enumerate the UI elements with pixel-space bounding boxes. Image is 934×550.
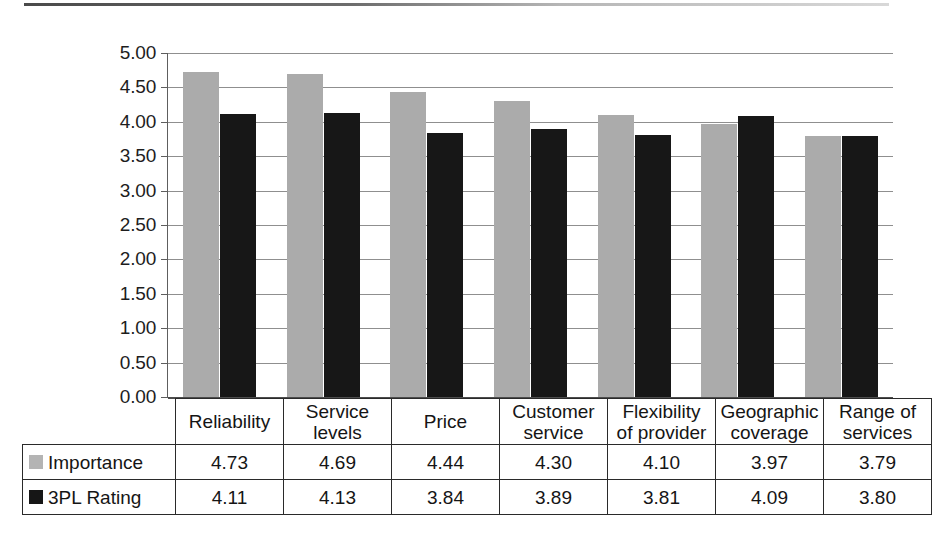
table-value-cell: 4.44 — [392, 445, 500, 480]
table-value-cell: 4.69 — [284, 445, 392, 480]
table-column-header: Range ofservices — [824, 399, 932, 445]
table-column-header: Reliability — [176, 399, 284, 445]
column-header-line: Price — [395, 411, 496, 432]
column-header-line: Customer — [503, 401, 604, 422]
y-axis-tick-label: 1.00 — [98, 318, 156, 337]
table-row: Importance4.734.694.444.304.103.973.79 — [23, 445, 932, 480]
y-axis-tick — [161, 294, 168, 295]
table-value-cell: 3.80 — [824, 480, 932, 515]
table-value-cell: 4.10 — [608, 445, 716, 480]
table-column-header: Customerservice — [500, 399, 608, 445]
y-axis-tick-label: 4.00 — [98, 112, 156, 131]
table-value-cell: 3.84 — [392, 480, 500, 515]
table-column-header: Servicelevels — [284, 399, 392, 445]
legend-cell: Importance — [23, 445, 176, 480]
y-axis-tick — [161, 87, 168, 88]
table-value-cell: 4.30 — [500, 445, 608, 480]
y-axis-tick-label: 4.50 — [98, 77, 156, 96]
legend-cell: 3PL Rating — [23, 480, 176, 515]
bar-rating — [324, 113, 360, 397]
bar-rating — [531, 129, 567, 397]
bar-importance — [494, 101, 530, 397]
table-head: ReliabilityServicelevelsPriceCustomerser… — [23, 399, 932, 445]
column-header-line: Range of — [827, 401, 928, 422]
column-header-line: Flexibility — [611, 401, 712, 422]
bar-importance — [390, 92, 426, 397]
table-value-cell: 3.81 — [608, 480, 716, 515]
bar-importance — [287, 74, 323, 397]
data-table: ReliabilityServicelevelsPriceCustomerser… — [22, 398, 932, 515]
table-row: 3PL Rating4.114.133.843.893.814.093.80 — [23, 480, 932, 515]
column-header-line: services — [827, 422, 928, 443]
y-axis-tick-label: 5.00 — [98, 43, 156, 62]
y-axis-tick — [161, 328, 168, 329]
bar-rating — [220, 114, 256, 397]
table-corner-cell — [23, 399, 176, 445]
column-header-line: Reliability — [179, 411, 280, 432]
column-header-line: levels — [287, 422, 388, 443]
table-column-header: Flexibilityof provider — [608, 399, 716, 445]
table-value-cell: 4.73 — [176, 445, 284, 480]
table-value-cell: 4.09 — [716, 480, 824, 515]
y-axis-tick-label: 0.50 — [98, 353, 156, 372]
bar-rating — [738, 116, 774, 397]
column-header-line: Geographic — [719, 401, 820, 422]
y-axis-tick — [161, 53, 168, 54]
table-value-cell: 3.89 — [500, 480, 608, 515]
bar-importance — [701, 124, 737, 397]
y-axis-tick-label: 3.00 — [98, 181, 156, 200]
legend-swatch-icon — [29, 490, 43, 504]
bar-rating — [842, 136, 878, 397]
column-header-line: service — [503, 422, 604, 443]
y-axis-tick — [161, 225, 168, 226]
bar-importance — [805, 136, 841, 397]
bar-chart-figure: 5.004.504.003.503.002.502.001.501.000.50… — [0, 0, 934, 550]
table-value-cell: 4.13 — [284, 480, 392, 515]
table-value-cell: 3.97 — [716, 445, 824, 480]
legend-swatch-icon — [29, 455, 43, 469]
y-axis-tick — [161, 363, 168, 364]
bars-layer — [168, 53, 893, 397]
legend-series-label: Importance — [48, 452, 143, 473]
bar-rating — [427, 133, 463, 397]
column-header-line: of provider — [611, 422, 712, 443]
table-column-header: Price — [392, 399, 500, 445]
table-column-header: Geographiccoverage — [716, 399, 824, 445]
table-body: Importance4.734.694.444.304.103.973.793P… — [23, 445, 932, 515]
table-value-cell: 4.11 — [176, 480, 284, 515]
y-axis-tick-label: 2.00 — [98, 249, 156, 268]
y-axis-tick — [161, 191, 168, 192]
table-header-row: ReliabilityServicelevelsPriceCustomerser… — [23, 399, 932, 445]
column-header-line: Service — [287, 401, 388, 422]
table-value-cell: 3.79 — [824, 445, 932, 480]
y-axis-tick — [161, 259, 168, 260]
legend-series-label: 3PL Rating — [48, 487, 141, 508]
bar-rating — [635, 135, 671, 397]
y-axis-tick-label: 2.50 — [98, 215, 156, 234]
y-axis-tick — [161, 156, 168, 157]
y-axis-tick-label: 1.50 — [98, 284, 156, 303]
y-axis-tick — [161, 122, 168, 123]
y-axis-tick-label: 3.50 — [98, 146, 156, 165]
y-axis-tick — [161, 397, 168, 398]
bar-importance — [183, 72, 219, 397]
column-header-line: coverage — [719, 422, 820, 443]
bar-importance — [598, 115, 634, 397]
